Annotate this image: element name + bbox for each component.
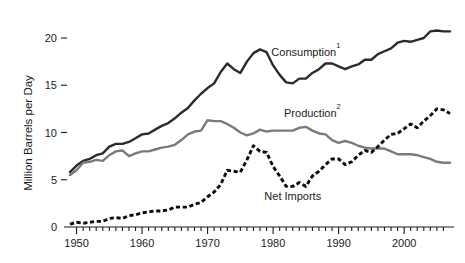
series-label-text: Consumption — [271, 46, 336, 58]
chart-svg: Million Barrels per Day 05101520 1950196… — [0, 0, 465, 263]
y-tick-label: 15 — [45, 79, 57, 91]
x-tick-label: 2000 — [392, 237, 416, 249]
series-paths-group — [70, 30, 450, 224]
y-axis-label-group: Million Barrels per Day — [22, 75, 34, 191]
x-tick-label: 1960 — [130, 237, 154, 249]
series-label-text: Production — [284, 107, 337, 119]
y-tick-label: 0 — [51, 221, 57, 233]
series-label-consumption: Consumption1 — [271, 40, 340, 58]
series-label-text: Net Imports — [264, 190, 321, 202]
chart-figure: Million Barrels per Day 05101520 1950196… — [0, 0, 465, 263]
series-line-net-imports — [70, 109, 450, 224]
series-label-footnote-marker: 2 — [337, 102, 341, 111]
series-label-production: Production2 — [284, 102, 341, 120]
y-tick-label: 5 — [51, 174, 57, 186]
y-tick-label: 10 — [45, 127, 57, 139]
series-label-net-imports: Net Imports — [264, 190, 321, 202]
x-tick-label: 1990 — [326, 237, 350, 249]
x-tick-label: 1980 — [261, 237, 285, 249]
y-tick-label: 20 — [45, 32, 57, 44]
series-label-footnote-marker: 1 — [336, 40, 340, 49]
x-tick-label: 1970 — [195, 237, 219, 249]
y-axis-label: Million Barrels per Day — [22, 75, 34, 191]
series-line-production — [70, 120, 450, 175]
y-axis-ticks: 05101520 — [45, 32, 67, 233]
x-tick-label: 1950 — [64, 237, 88, 249]
x-axis-minor-ticks — [83, 227, 443, 231]
